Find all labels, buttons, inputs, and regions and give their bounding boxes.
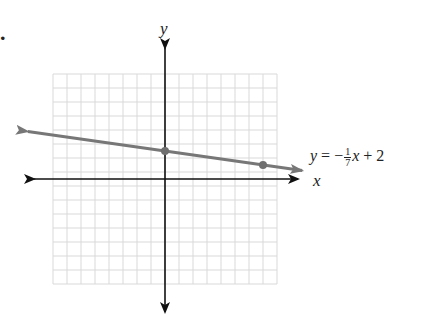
slope-fraction: 17 bbox=[344, 147, 351, 168]
equation-lhs: y bbox=[310, 147, 317, 164]
line-equation-label: y = −17x + 2 bbox=[310, 147, 384, 168]
data-point bbox=[259, 161, 267, 169]
equation-plus: + bbox=[363, 147, 372, 164]
equation-sign: − bbox=[334, 147, 343, 164]
x-axis-label: x bbox=[312, 171, 321, 190]
equation-variable: x bbox=[352, 147, 359, 164]
y-axis-label: y bbox=[158, 19, 168, 38]
equation-equals: = bbox=[321, 147, 330, 164]
slope-denominator: 7 bbox=[344, 158, 351, 168]
data-point bbox=[161, 147, 169, 155]
equation-constant: 2 bbox=[376, 147, 384, 164]
